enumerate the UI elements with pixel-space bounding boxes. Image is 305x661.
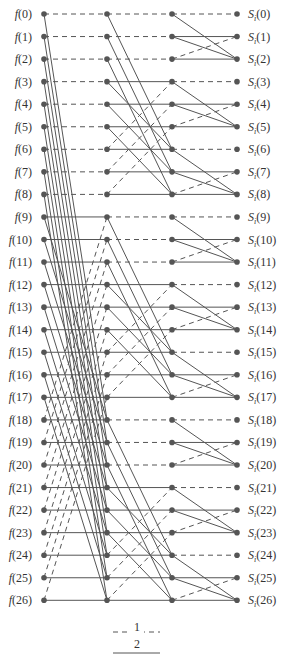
output-label-12: Si(12) [248,278,276,294]
input-label-8: f(8) [15,187,32,201]
node-col3-row19 [169,440,175,446]
node-col1-row10 [41,237,47,243]
node-col4-row9 [234,214,240,220]
node-col3-row16 [169,372,175,378]
output-label-24: Si(24) [248,548,276,564]
output-label-22: Si(22) [248,503,276,519]
node-col1-row0 [41,11,47,17]
node-col4-row23 [234,530,240,536]
node-col2-row8 [104,192,110,198]
node-col3-row9 [169,214,175,220]
node-col1-row7 [41,169,47,175]
input-label-12: f(12) [9,278,32,292]
node-col3-row11 [169,259,175,265]
node-col2-row1 [104,34,110,40]
input-label-23: f(23) [9,526,32,540]
node-col2-row11 [104,259,110,265]
node-col1-row9 [41,214,47,220]
output-label-4: Si(4) [248,97,270,113]
node-col4-row6 [234,147,240,153]
node-col2-row20 [104,462,110,468]
node-col4-row14 [234,327,240,333]
node-col4-row5 [234,124,240,130]
butterfly-diagram: f(0)f(1)f(2)f(3)f(4)f(5)f(6)f(7)f(8)f(9)… [0,0,305,661]
node-col2-row5 [104,124,110,130]
node-col4-row21 [234,485,240,491]
output-label-18: Si(18) [248,413,276,429]
node-col1-row19 [41,440,47,446]
input-label-4: f(4) [15,97,32,111]
node-col2-row6 [104,147,110,153]
node-col2-row4 [104,101,110,107]
node-col1-row17 [41,395,47,401]
node-col2-row14 [104,327,110,333]
node-col3-row12 [169,282,175,288]
node-col3-row25 [169,575,175,581]
node-col2-row0 [104,11,110,17]
node-col2-row24 [104,552,110,558]
node-col2-row7 [104,169,110,175]
input-label-25: f(25) [9,571,32,585]
node-col1-row12 [41,282,47,288]
node-col2-row9 [104,214,110,220]
node-col3-row17 [169,395,175,401]
output-label-9: Si(9) [248,210,270,226]
node-col4-row17 [234,395,240,401]
output-label-23: Si(23) [248,526,276,542]
node-col2-row15 [104,349,110,355]
node-col1-row11 [41,259,47,265]
edges-layer [44,14,237,600]
output-label-11: Si(11) [248,255,276,271]
node-col3-row24 [169,552,175,558]
input-label-9: f(9) [15,210,32,224]
node-col4-row19 [234,440,240,446]
node-col2-row2 [104,56,110,62]
node-col1-row8 [41,192,47,198]
output-label-13: Si(13) [248,300,276,316]
node-col3-row18 [169,417,175,423]
node-col3-row23 [169,530,175,536]
node-col4-row22 [234,507,240,513]
node-col1-row1 [41,34,47,40]
legend-dashed-label: 1 [134,620,140,634]
node-col4-row2 [234,56,240,62]
node-col2-row10 [104,237,110,243]
node-col3-row2 [169,56,175,62]
node-col3-row21 [169,485,175,491]
node-col2-row18 [104,417,110,423]
input-label-22: f(22) [9,503,32,517]
node-col3-row13 [169,304,175,310]
node-col4-row0 [234,11,240,17]
node-col4-row4 [234,101,240,107]
input-label-19: f(19) [9,435,32,449]
node-col4-row13 [234,304,240,310]
node-col3-row14 [169,327,175,333]
input-label-15: f(15) [9,345,32,359]
node-col1-row26 [41,598,47,604]
node-col3-row5 [169,124,175,130]
input-label-11: f(11) [9,255,32,269]
node-col3-row6 [169,147,175,153]
node-col2-row13 [104,304,110,310]
node-col4-row11 [234,259,240,265]
input-label-14: f(14) [9,323,32,337]
node-col3-row26 [169,598,175,604]
node-col4-row25 [234,575,240,581]
node-col3-row0 [169,11,175,17]
node-col4-row15 [234,349,240,355]
input-label-6: f(6) [15,142,32,156]
legend: 1 2 [113,620,160,653]
node-col4-row26 [234,598,240,604]
output-label-25: Si(25) [248,571,276,587]
node-col3-row20 [169,462,175,468]
node-col4-row1 [234,34,240,40]
output-label-21: Si(21) [248,481,276,497]
output-label-20: Si(20) [248,458,276,474]
node-col4-row10 [234,237,240,243]
output-label-15: Si(15) [248,345,276,361]
output-label-19: Si(19) [248,435,276,451]
node-col1-row3 [41,79,47,85]
node-col2-row3 [104,79,110,85]
input-label-10: f(10) [9,233,32,247]
output-label-17: Si(17) [248,390,276,406]
